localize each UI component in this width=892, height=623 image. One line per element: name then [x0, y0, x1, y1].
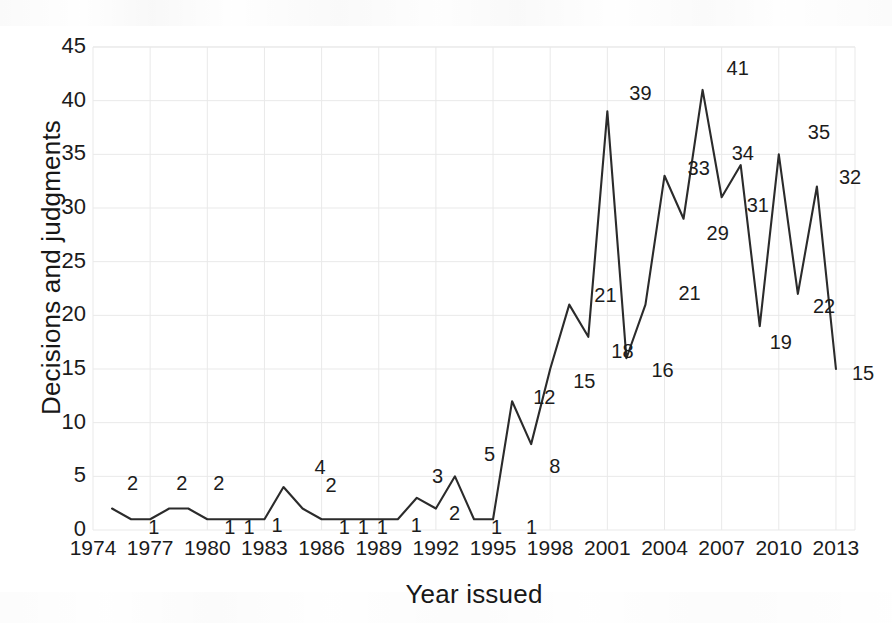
plot-area [0, 0, 892, 623]
data-point-label: 15 [852, 363, 874, 383]
x-tick-label: 2013 [797, 537, 875, 558]
data-point-label: 12 [533, 387, 555, 407]
data-point-label: 8 [549, 456, 560, 476]
data-point-label: 2 [449, 503, 460, 523]
data-point-label: 22 [813, 296, 835, 316]
data-point-label: 18 [611, 341, 633, 361]
data-point-label: 32 [839, 167, 861, 187]
data-point-label: 2 [213, 473, 224, 493]
data-point-label: 1 [377, 517, 388, 537]
data-point-label: 1 [224, 517, 235, 537]
data-point-label: 15 [573, 371, 595, 391]
data-point-label: 2 [127, 473, 138, 493]
data-point-label: 31 [747, 195, 769, 215]
data-point-label: 33 [688, 158, 710, 178]
line-chart: Decisions and judgments 0510152025303540… [0, 0, 892, 623]
data-point-label: 1 [491, 517, 502, 537]
data-point-label: 5 [484, 444, 495, 464]
data-point-label: 34 [732, 143, 754, 163]
data-point-label: 1 [411, 515, 422, 535]
data-point-label: 21 [594, 285, 616, 305]
data-point-label: 29 [707, 223, 729, 243]
data-point-label: 16 [651, 360, 673, 380]
data-point-label: 41 [727, 58, 749, 78]
data-point-label: 1 [148, 517, 159, 537]
data-point-label: 39 [629, 83, 651, 103]
x-axis-title: Year issued [93, 579, 855, 610]
data-point-label: 2 [176, 473, 187, 493]
data-point-label: 21 [679, 283, 701, 303]
data-point-label: 1 [526, 517, 537, 537]
data-point-label: 2 [326, 475, 337, 495]
data-point-label: 3 [432, 466, 443, 486]
data-point-label: 19 [770, 332, 792, 352]
data-point-label: 4 [315, 457, 326, 477]
data-point-label: 1 [272, 515, 283, 535]
data-point-label: 1 [339, 517, 350, 537]
data-point-label: 1 [243, 517, 254, 537]
data-point-label: 35 [808, 122, 830, 142]
data-point-label: 1 [358, 517, 369, 537]
